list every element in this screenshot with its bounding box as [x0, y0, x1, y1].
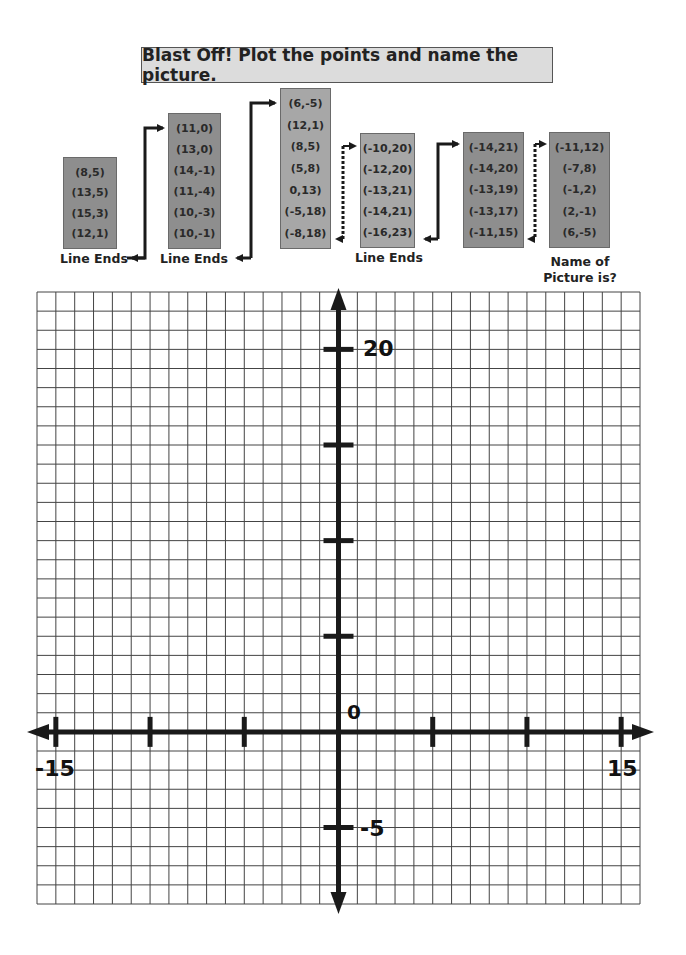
x-axis-right-arrow-icon: [632, 724, 654, 740]
origin-label: 0: [347, 701, 361, 723]
y-axis-down-arrow-icon: [331, 892, 347, 914]
x-axis-label-15: 15: [607, 758, 638, 780]
y-axis-label-20: 20: [363, 338, 394, 360]
y-axis-label-neg5: -5: [360, 818, 384, 840]
y-axis-up-arrow-icon: [331, 288, 347, 310]
x-axis-label-neg15: -15: [35, 758, 75, 780]
coordinate-grid[interactable]: [0, 0, 686, 955]
x-axis-left-arrow-icon: [27, 724, 49, 740]
